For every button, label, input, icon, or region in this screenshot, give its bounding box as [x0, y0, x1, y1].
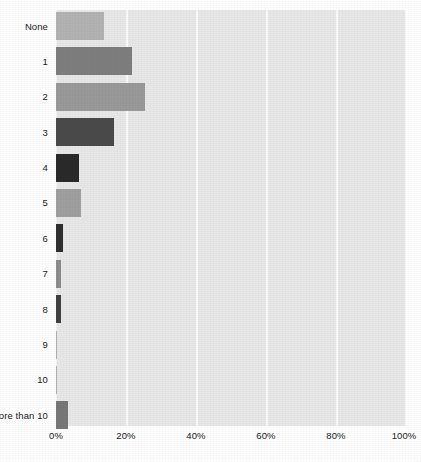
y-axis-label: 4 [0, 152, 52, 184]
y-axis-label: 3 [0, 116, 52, 148]
bar[interactable] [56, 401, 68, 429]
bar[interactable] [56, 189, 81, 217]
y-axis-label: 6 [0, 222, 52, 254]
x-axis-label: 80% [326, 430, 345, 441]
x-axis-label: 40% [186, 430, 205, 441]
x-axis-label: 20% [116, 430, 135, 441]
y-axis-label: 5 [0, 187, 52, 219]
bar-row [56, 222, 406, 254]
x-axis: 0% 20% 40% 60% 80% 100% [56, 430, 406, 450]
bar-row [56, 329, 406, 361]
y-axis-label: 7 [0, 258, 52, 290]
bars-layer [56, 10, 406, 426]
bar[interactable] [56, 295, 61, 323]
y-axis-label: 2 [0, 81, 52, 113]
y-axis-label: 10 [0, 364, 52, 396]
bar[interactable] [56, 83, 145, 111]
y-axis-label: 9 [0, 329, 52, 361]
x-axis-label: 0% [49, 430, 63, 441]
bar-row [56, 364, 406, 396]
y-axis-label: 8 [0, 293, 52, 325]
bar[interactable] [56, 47, 132, 75]
bar[interactable] [56, 154, 79, 182]
y-axis: None 1 2 3 4 5 6 7 8 9 10 More than 10 [0, 10, 52, 426]
bar-row [56, 399, 406, 431]
bar-chart: None 1 2 3 4 5 6 7 8 9 10 More than 10 0… [0, 0, 421, 462]
bar[interactable] [56, 260, 61, 288]
y-axis-label: More than 10 [0, 399, 52, 431]
x-axis-label: 60% [256, 430, 275, 441]
y-axis-label: None [0, 10, 52, 42]
bar[interactable] [56, 331, 57, 359]
bar[interactable] [56, 118, 114, 146]
bar-row [56, 258, 406, 290]
y-axis-label: 1 [0, 45, 52, 77]
bar-row [56, 116, 406, 148]
bar-row [56, 187, 406, 219]
bar[interactable] [56, 366, 57, 394]
bar-row [56, 152, 406, 184]
bar-row [56, 45, 406, 77]
bar-row [56, 81, 406, 113]
bar-row [56, 293, 406, 325]
x-axis-label: 100% [392, 430, 417, 441]
bar[interactable] [56, 12, 104, 40]
bar-row [56, 10, 406, 42]
bar[interactable] [56, 224, 63, 252]
